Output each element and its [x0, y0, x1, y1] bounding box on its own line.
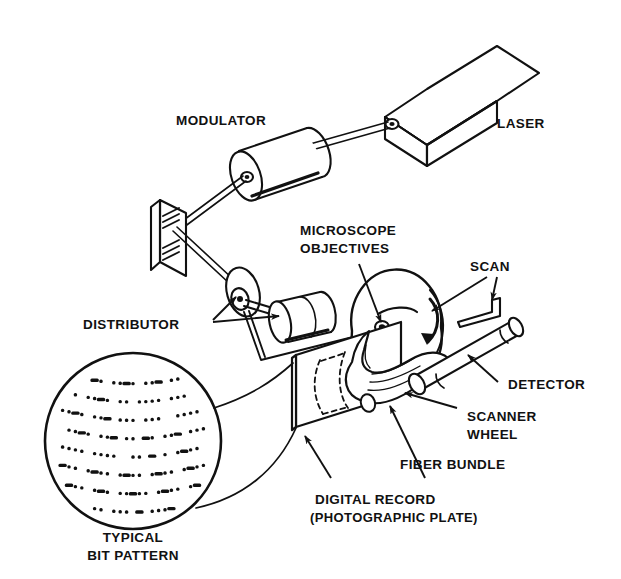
laser-box	[385, 46, 539, 166]
label-scan: SCAN	[470, 259, 510, 274]
bit-mark	[157, 509, 160, 512]
bit-mark	[74, 393, 77, 396]
bit-mark	[99, 416, 102, 419]
bit-mark	[151, 510, 154, 513]
bit-mark	[144, 400, 147, 403]
bit-mark	[80, 413, 83, 416]
bit-mark	[106, 454, 109, 457]
leader-detector	[468, 355, 498, 382]
leader-scanner-wheel	[405, 393, 457, 408]
bit-mark	[202, 427, 205, 430]
bit-mark	[195, 447, 198, 450]
bit-mark	[151, 381, 154, 384]
bit-mark	[119, 418, 122, 421]
bit-mark	[67, 447, 70, 450]
bit-mark	[151, 473, 154, 476]
label-typical-bit-pattern-line1: TYPICAL	[103, 530, 164, 545]
bit-mark	[167, 507, 175, 510]
bit-mark	[61, 409, 64, 412]
bit-mark	[144, 492, 147, 495]
bit-mark	[202, 464, 205, 467]
bit-mark	[138, 474, 141, 477]
bit-mark	[163, 508, 166, 511]
bit-mark	[189, 411, 192, 414]
bit-mark	[170, 470, 173, 473]
bit-mark	[78, 431, 86, 434]
bit-mark	[119, 473, 122, 476]
bit-mark	[119, 382, 122, 385]
bit-mark	[125, 510, 128, 513]
bit-mark	[138, 400, 141, 403]
bit-mark	[176, 414, 179, 417]
bit-mark	[176, 377, 179, 380]
bit-mark	[99, 471, 102, 474]
bit-mark	[71, 411, 79, 414]
bit-mark	[131, 474, 134, 477]
bit-mark	[189, 448, 192, 451]
bit-mark	[131, 382, 134, 385]
bit-mark	[125, 492, 128, 495]
diagram-canvas: LASER MODULATOR MICROSCOPE OBJECTIVES SC…	[0, 0, 621, 579]
bit-mark	[195, 465, 198, 468]
bit-mark	[106, 490, 109, 493]
bit-mark	[80, 450, 83, 453]
bit-mark	[174, 432, 182, 435]
bit-mark	[58, 464, 66, 467]
label-typical-bit-pattern-line2: BIT PATTERN	[87, 548, 179, 563]
label-scanner-wheel-line1: SCANNER	[467, 409, 537, 424]
bit-pattern-magnifier-circle	[45, 353, 221, 529]
bit-mark	[99, 435, 102, 438]
bit-mark	[195, 428, 198, 431]
label-scanner-wheel-line2: WHEEL	[467, 427, 518, 442]
label-microscope-objectives-line2: OBJECTIVES	[300, 241, 390, 256]
bit-mark	[99, 380, 102, 383]
bit-mark	[163, 435, 166, 438]
bit-mark	[183, 468, 186, 471]
modulator-cylinder	[224, 128, 331, 205]
bit-mark	[157, 490, 160, 493]
bit-mark	[106, 435, 109, 438]
label-microscope-objectives-line1: MICROSCOPE	[300, 223, 396, 238]
leader-scan-bracket	[492, 277, 497, 300]
bit-mark	[87, 469, 90, 472]
bit-mark	[163, 453, 166, 456]
bit-mark	[163, 471, 166, 474]
label-distributor: DISTRIBUTOR	[83, 317, 179, 332]
bit-mark	[90, 470, 98, 473]
bit-mark	[135, 510, 143, 513]
label-digital-record-line1: DIGITAL RECORD	[315, 492, 436, 507]
bit-mark	[74, 430, 77, 433]
bit-mark	[154, 472, 162, 475]
bit-mark	[125, 419, 128, 422]
bit-mark	[119, 510, 122, 513]
scan-direction-marker	[458, 298, 500, 327]
bit-mark	[195, 410, 198, 413]
leader-digital-record	[305, 436, 331, 478]
bit-mark	[154, 380, 162, 383]
bit-mark	[151, 418, 154, 421]
bit-mark	[103, 417, 111, 420]
bit-mark	[144, 382, 147, 385]
bit-mark	[122, 382, 130, 385]
bit-mark	[193, 483, 201, 486]
bit-mark	[138, 492, 141, 495]
bit-mark	[157, 399, 160, 402]
bit-mark	[67, 465, 70, 468]
label-digital-record-line2: (PHOTOGRAPHIC PLATE)	[310, 510, 478, 525]
bit-mark	[125, 400, 128, 403]
bit-mark	[93, 415, 96, 418]
bit-mark	[170, 397, 173, 400]
bit-mark	[131, 437, 134, 440]
bit-mark	[90, 378, 98, 381]
bit-mark	[129, 492, 137, 495]
bit-mark	[74, 467, 77, 470]
bit-mark	[74, 448, 77, 451]
bit-mark	[99, 453, 102, 456]
bit-mark	[122, 474, 130, 477]
bit-mark	[148, 454, 156, 457]
bit-mark	[112, 381, 115, 384]
bit-mark	[189, 485, 192, 488]
bit-mark	[131, 455, 134, 458]
bit-mark	[125, 437, 128, 440]
bit-mark	[93, 452, 96, 455]
